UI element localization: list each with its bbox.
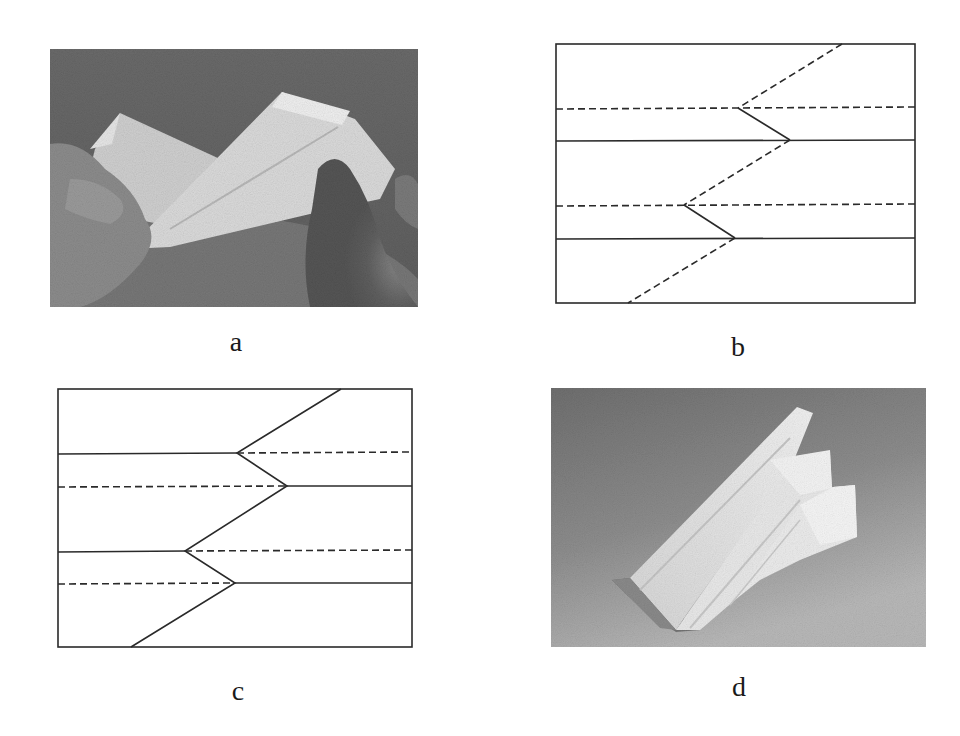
valley-fold-line	[556, 204, 915, 206]
crease-pattern-c	[56, 387, 415, 650]
diagonal-valley-fold	[738, 44, 842, 108]
diagonal-valley-fold	[628, 238, 735, 303]
diagonal-mountain-fold	[684, 205, 735, 238]
valley-fold-line	[58, 583, 235, 584]
diagonal-valley-fold	[684, 140, 790, 205]
zigzag-mountain-fold	[131, 389, 341, 647]
photo-folding-paper	[50, 49, 418, 307]
crease-diagram-b	[554, 42, 918, 306]
panel-label-a: a	[216, 328, 256, 356]
photo-finished-fold	[551, 388, 926, 647]
valley-fold-line	[556, 107, 915, 109]
panel-label-d: d	[719, 673, 759, 701]
panel-label-b: b	[718, 333, 758, 361]
valley-fold-line	[237, 452, 412, 453]
mountain-fold-line	[556, 238, 915, 239]
mountain-fold-line	[58, 551, 185, 552]
crease-diagram-c	[56, 387, 415, 650]
panel-label-c: c	[218, 677, 258, 705]
paper-outline	[58, 389, 412, 647]
photo-a-image	[50, 49, 418, 307]
crease-pattern-b	[554, 42, 918, 306]
mountain-fold-line	[556, 140, 915, 141]
diagonal-mountain-fold	[738, 108, 790, 140]
paper-outline	[556, 44, 915, 303]
valley-fold-line	[58, 486, 287, 487]
photo-d-image	[551, 388, 926, 647]
mountain-fold-line	[58, 453, 237, 454]
valley-fold-line	[185, 550, 412, 551]
